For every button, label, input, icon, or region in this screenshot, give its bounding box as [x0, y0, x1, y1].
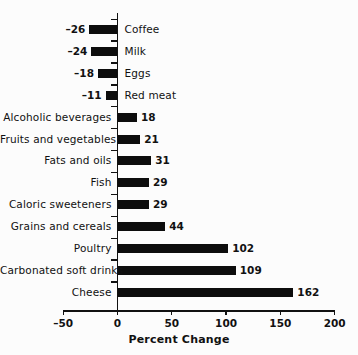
bar: [118, 244, 229, 253]
x-axis-tick: [225, 310, 226, 315]
bar: [91, 47, 117, 56]
category-label: Milk: [125, 46, 147, 57]
y-axis-tick: [111, 62, 117, 63]
y-axis-tick: [111, 238, 117, 239]
x-axis-tick-label: 0: [98, 318, 138, 329]
x-axis-line: [63, 310, 334, 312]
bar: [118, 200, 149, 209]
category-label: Fats and oils: [0, 155, 112, 166]
bar: [118, 288, 294, 297]
x-axis-tick-label: 150: [260, 318, 300, 329]
y-axis-tick: [111, 19, 117, 20]
value-label: –26: [0, 24, 85, 35]
y-axis-tick: [111, 128, 117, 129]
value-label: 162: [297, 287, 319, 298]
bar: [118, 156, 152, 165]
x-axis-tick: [171, 310, 172, 315]
x-axis-tick-label: 50: [152, 318, 192, 329]
bar: [98, 69, 118, 78]
bar: [118, 178, 149, 187]
y-axis-tick: [111, 150, 117, 151]
category-label: Fruits and vegetables: [0, 134, 112, 145]
x-axis-tick-label: –50: [43, 318, 83, 329]
value-label: –11: [0, 90, 102, 101]
y-axis-tick: [111, 194, 117, 195]
value-label: 21: [144, 134, 159, 145]
y-axis-tick: [111, 281, 117, 282]
bar: [118, 222, 166, 231]
category-label: Poultry: [0, 243, 112, 254]
category-label: Cheese: [0, 287, 112, 298]
x-axis-tick: [280, 310, 281, 315]
category-label: Carbonated soft drinks: [0, 265, 112, 276]
x-axis-tick: [334, 310, 335, 315]
bar: [118, 135, 141, 144]
bar: [89, 25, 117, 34]
category-label: Fish: [0, 177, 112, 188]
y-axis-tick: [111, 216, 117, 217]
bar-chart: Coffee–26Milk–24Eggs–18Red meat–11Alcoho…: [0, 0, 358, 355]
value-label: 109: [240, 265, 262, 276]
value-label: 18: [141, 112, 156, 123]
value-label: 31: [155, 155, 170, 166]
category-label: Eggs: [125, 68, 151, 79]
category-label: Grains and cereals: [0, 221, 112, 232]
y-axis-tick: [111, 84, 117, 85]
x-axis-tick: [117, 310, 118, 315]
y-axis-tick: [111, 172, 117, 173]
x-axis-tick-label: 100: [206, 318, 246, 329]
category-label: Coffee: [125, 24, 160, 35]
x-axis-tick: [63, 310, 64, 315]
x-axis-tick-label: 200: [315, 318, 355, 329]
value-label: 29: [153, 177, 168, 188]
value-label: –18: [0, 68, 94, 79]
bar: [106, 91, 118, 100]
bar: [118, 266, 236, 275]
value-label: 29: [153, 199, 168, 210]
y-axis-tick: [111, 40, 117, 41]
value-label: 44: [169, 221, 184, 232]
x-axis-title: Percent Change: [0, 334, 358, 346]
category-label: Red meat: [125, 90, 177, 101]
bar: [118, 113, 138, 122]
plot-area: Coffee–26Milk–24Eggs–18Red meat–11Alcoho…: [0, 0, 358, 355]
category-label: Caloric sweeteners: [0, 199, 112, 210]
value-label: 102: [232, 243, 254, 254]
y-axis-tick: [111, 106, 117, 107]
category-label: Alcoholic beverages: [0, 112, 112, 123]
value-label: –24: [0, 46, 87, 57]
y-axis-tick: [111, 259, 117, 260]
